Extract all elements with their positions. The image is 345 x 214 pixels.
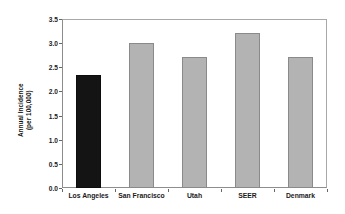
x-axis-label-san-francisco: San Francisco [118, 192, 164, 199]
y-axis-label: Annual Incidence (per 100,000) [12, 60, 38, 160]
bar-seer [235, 33, 260, 188]
x-axis-tick-mark [327, 189, 328, 193]
x-axis-label-denmark: Denmark [286, 192, 315, 199]
y-axis-label-line2: (per 100,000) [25, 83, 33, 137]
y-axis-tick-label: 0.5 [36, 160, 58, 167]
x-axis-label-los-angeles: Los Angeles [68, 192, 108, 199]
bar-denmark [288, 57, 313, 188]
y-axis-label-line1: Annual Incidence [17, 83, 25, 137]
y-axis-tick-label: 2.5 [36, 64, 58, 71]
y-axis-tick-label: 1.0 [36, 136, 58, 143]
bar-chart-figure: Annual Incidence (per 100,000) 0.00.51.0… [0, 0, 345, 214]
y-axis-tick-label: 1.5 [36, 112, 58, 119]
bar-san-francisco [129, 43, 154, 188]
x-axis-label-seer: SEER [238, 192, 257, 199]
bars-container [62, 19, 327, 188]
bar-utah [182, 57, 207, 188]
y-axis-tick-label: 3.0 [36, 40, 58, 47]
x-axis-category-labels: Los AngelesSan FranciscoUtahSEERDenmark [62, 192, 327, 208]
y-axis-tick-label: 2.0 [36, 88, 58, 95]
x-axis-label-utah: Utah [187, 192, 202, 199]
y-axis-tick-labels: 0.00.51.01.52.02.53.03.5 [36, 0, 58, 214]
y-axis-tick-label: 3.5 [36, 16, 58, 23]
bar-los-angeles [76, 75, 101, 188]
